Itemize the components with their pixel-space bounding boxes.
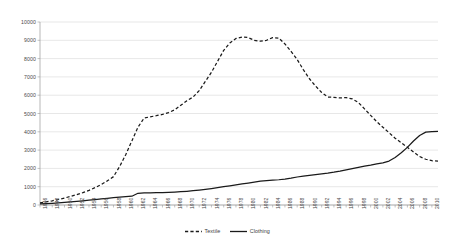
series-line-clothing	[40, 131, 438, 203]
x-tick-label: 1992	[324, 198, 330, 209]
x-tick-label: 1998	[361, 198, 367, 209]
x-tick-label: 2006	[409, 198, 415, 209]
gridlines	[40, 22, 438, 205]
y-tick-label: 7000	[6, 74, 36, 80]
x-tick-label: 1996	[348, 198, 354, 209]
y-tick-label: 3000	[6, 147, 36, 153]
x-tick-label: 1988	[299, 198, 305, 209]
legend-item-textile[interactable]: Textile	[185, 228, 220, 234]
x-tick-label: 2010	[434, 198, 440, 209]
x-tick-label: 1950	[67, 198, 73, 209]
y-tick-label: 10000	[6, 19, 36, 25]
x-tick-label: 1994	[336, 198, 342, 209]
x-tick-label: 1954	[91, 198, 97, 209]
x-tick-label: 1958	[116, 198, 122, 209]
x-tick-label: 1970	[189, 198, 195, 209]
x-tick-label: 1982	[263, 198, 269, 209]
x-tick-label: 2000	[373, 198, 379, 209]
x-tick-label: 1960	[128, 198, 134, 209]
x-tick-label: 1946	[42, 198, 48, 209]
legend-line-icon	[230, 229, 247, 234]
y-tick-label: 2000	[6, 165, 36, 171]
line-chart: 0100020003000400050006000700080009000100…	[0, 0, 455, 245]
x-tick-label: 1962	[140, 198, 146, 209]
chart-legend: TextileClothing	[0, 228, 455, 234]
x-tick-label: 1990	[312, 198, 318, 209]
y-tick-label: 1000	[6, 184, 36, 190]
x-tick-label: 1986	[287, 198, 293, 209]
x-tick-label: 2004	[397, 198, 403, 209]
x-tick-label: 1972	[201, 198, 207, 209]
x-tick-label: 1976	[226, 198, 232, 209]
x-tick-label: 1948	[54, 198, 60, 209]
legend-label: Clothing	[250, 228, 270, 234]
y-tick-label: 4000	[6, 129, 36, 135]
x-tick-label: 1984	[275, 198, 281, 209]
x-tick-label: 1966	[165, 198, 171, 209]
x-tick-label: 1952	[79, 198, 85, 209]
series-line-textile	[40, 37, 438, 203]
data-series-layer	[40, 37, 438, 204]
x-tick-label: 1974	[214, 198, 220, 209]
x-tick-label: 1980	[250, 198, 256, 209]
y-tick-label: 5000	[6, 111, 36, 117]
x-tick-label: 2002	[385, 198, 391, 209]
x-tick-label: 1968	[177, 198, 183, 209]
legend-item-clothing[interactable]: Clothing	[230, 228, 270, 234]
y-tick-label: 6000	[6, 92, 36, 98]
legend-label: Textile	[205, 228, 221, 234]
x-tick-label: 1964	[152, 198, 158, 209]
legend-line-icon	[185, 229, 202, 234]
x-tick-label: 1956	[103, 198, 109, 209]
y-tick-label: 0	[6, 202, 36, 208]
y-tick-label: 9000	[6, 37, 36, 43]
x-tick-label: 1978	[238, 198, 244, 209]
x-tick-marks	[38, 22, 439, 208]
x-tick-label: 2008	[422, 198, 428, 209]
y-tick-label: 8000	[6, 56, 36, 62]
